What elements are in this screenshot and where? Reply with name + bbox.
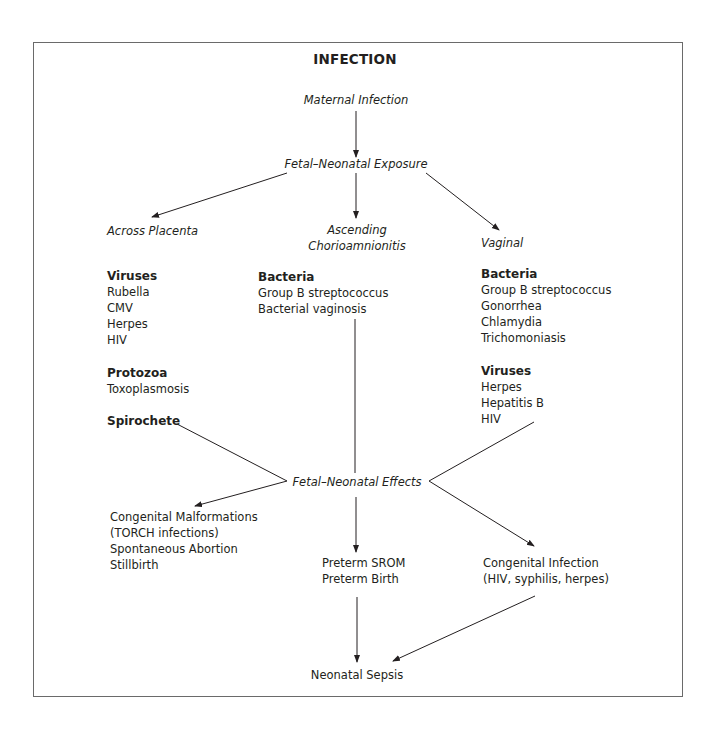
arrow-exposure-to-placenta [152, 173, 287, 217]
vaginal-virus-item: Hepatitis B [481, 395, 544, 411]
placenta-viruses-heading: Viruses [107, 268, 157, 284]
outcome-middle-item: Preterm SROM [322, 555, 406, 571]
arrow-effects-to-malformations [195, 481, 287, 506]
placenta-protozoa-item: Toxoplasmosis [107, 381, 189, 397]
node-fetal-neonatal-exposure: Fetal–Neonatal Exposure [284, 156, 427, 172]
placenta-virus-item: Herpes [107, 316, 148, 332]
ascending-bacteria-item: Group B streptococcus [258, 285, 388, 301]
route-across-placenta: Across Placenta [107, 223, 198, 239]
placenta-spirochete-heading: Spirochete [107, 413, 180, 429]
vaginal-bacteria-item: Chlamydia [481, 314, 542, 330]
arrow-congenital-infection-to-sepsis [393, 596, 535, 661]
arrow-exposure-to-vaginal [426, 173, 499, 230]
vaginal-bacteria-item: Group B streptococcus [481, 282, 611, 298]
route-ascending-line1: Ascending [327, 222, 387, 238]
node-neonatal-sepsis: Neonatal Sepsis [311, 667, 403, 683]
arrow-effects-to-congenital-infection [429, 481, 534, 546]
line-spirochete-to-effects [177, 424, 287, 481]
placenta-virus-item: HIV [107, 332, 127, 348]
vaginal-virus-item: Herpes [481, 379, 522, 395]
placenta-virus-item: CMV [107, 300, 133, 316]
placenta-virus-item: Rubella [107, 284, 150, 300]
vaginal-bacteria-item: Gonorrhea [481, 298, 542, 314]
node-fetal-neonatal-effects: Fetal–Neonatal Effects [292, 474, 421, 490]
outcome-left-item: Spontaneous Abortion [110, 541, 238, 557]
vaginal-bacteria-heading: Bacteria [481, 266, 537, 282]
placenta-protozoa-heading: Protozoa [107, 365, 167, 381]
outcome-right-item: (HIV, syphilis, herpes) [483, 571, 609, 587]
ascending-bacteria-item: Bacterial vaginosis [258, 301, 367, 317]
vaginal-viruses-heading: Viruses [481, 363, 531, 379]
outcome-left-item: Congenital Malformations [110, 509, 258, 525]
outcome-left-item: (TORCH infections) [110, 525, 219, 541]
ascending-bacteria-heading: Bacteria [258, 269, 314, 285]
vaginal-virus-item: HIV [481, 411, 501, 427]
line-vaginal-to-effects [429, 422, 534, 481]
vaginal-bacteria-item: Trichomoniasis [481, 330, 566, 346]
route-vaginal: Vaginal [481, 235, 523, 251]
node-maternal-infection: Maternal Infection [304, 92, 409, 108]
diagram-title: INFECTION [313, 51, 396, 67]
route-ascending-line2: Chorioamnionitis [308, 238, 405, 254]
outcome-right-item: Congenital Infection [483, 555, 599, 571]
outcome-left-item: Stillbirth [110, 557, 158, 573]
outcome-middle-item: Preterm Birth [322, 571, 399, 587]
